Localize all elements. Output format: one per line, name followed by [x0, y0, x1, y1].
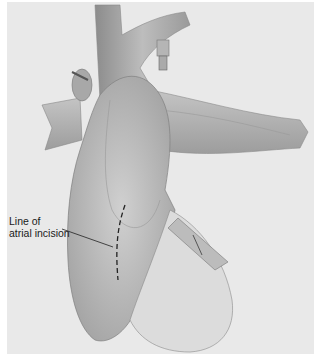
left-vessel [42, 98, 82, 150]
incision-label-line2: atrial incision [9, 227, 70, 239]
left-clamp [72, 69, 92, 101]
incision-label: Line of atrial incision [9, 215, 70, 239]
right-clamp [157, 40, 169, 70]
incision-label-line1: Line of [9, 215, 70, 227]
heart-illustration [0, 0, 320, 360]
right-pulmonary-vessel [150, 90, 308, 153]
